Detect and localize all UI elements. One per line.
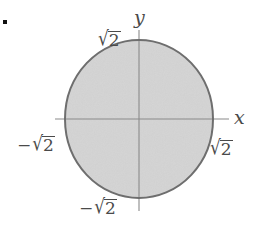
y-tick-label-positive: √2 xyxy=(97,31,121,49)
x-axis-label: x xyxy=(234,108,245,127)
minus-glyph: − xyxy=(79,200,93,217)
radical-group: √2 xyxy=(94,199,117,217)
plot-svg xyxy=(0,0,263,226)
y-axis-label: y xyxy=(134,8,145,27)
radical-group: √2 xyxy=(98,31,121,49)
x-tick-label-positive: √2 xyxy=(209,140,233,158)
figure-canvas: y x √2 −√2 √2 −√2 xyxy=(0,0,263,226)
radicand-value: 2 xyxy=(42,136,55,154)
x-tick-label-negative: −√2 xyxy=(17,136,55,154)
y-tick-label-negative: −√2 xyxy=(79,199,117,217)
radical-group: √2 xyxy=(32,136,55,154)
radicand-value: 2 xyxy=(104,199,117,217)
radical-group: √2 xyxy=(210,140,233,158)
disk-grain-texture xyxy=(60,35,220,205)
radicand-value: 2 xyxy=(220,140,233,158)
radicand-value: 2 xyxy=(108,31,121,49)
minus-glyph: − xyxy=(17,137,31,154)
